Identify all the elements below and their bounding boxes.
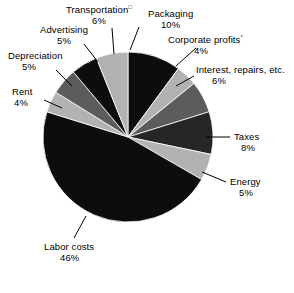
slice-label-depreciation: Depreciation 5% (8, 50, 63, 72)
slice-label-transportation-footnote: □ (128, 4, 132, 10)
leader-line-advertising (84, 44, 98, 62)
slice-value-depreciation: 5% (22, 61, 63, 72)
slice-value-transportation: 6% (92, 15, 132, 26)
slice-value-taxes: 8% (241, 142, 259, 153)
slice-label-interest-text: Interest, repairs, etc. (196, 64, 285, 75)
pie-chart: Packaging 10% Corporate profits° 4% Inte… (0, 0, 294, 293)
leader-line-packaging (130, 27, 139, 50)
slice-label-corporate-profits: Corporate profits° 4% (168, 34, 243, 56)
slice-label-energy: Energy 5% (230, 176, 261, 198)
slice-label-advertising: Advertising 5% (40, 24, 88, 46)
leader-line-transportation (112, 28, 114, 54)
slice-label-transportation-text: Transportation (66, 4, 128, 15)
slice-value-interest: 6% (212, 75, 285, 86)
slice-label-labor-costs: Labor costs 46% (44, 241, 94, 263)
slice-label-interest: Interest, repairs, etc. 6% (196, 64, 285, 86)
slice-value-corporate-profits: 4% (194, 45, 243, 56)
leader-line-energy (202, 172, 226, 182)
slice-label-taxes-text: Taxes (234, 131, 259, 142)
leader-line-labor-costs (74, 216, 86, 238)
slice-label-corporate-profits-footnote: ° (240, 34, 243, 40)
slice-value-labor-costs: 46% (60, 252, 94, 263)
slice-label-energy-text: Energy (230, 176, 261, 187)
slice-value-energy: 5% (239, 187, 261, 198)
slice-label-rent: Rent 4% (12, 86, 32, 108)
slice-label-taxes: Taxes 8% (234, 131, 259, 153)
slice-value-rent: 4% (14, 97, 32, 108)
slice-label-depreciation-text: Depreciation (8, 50, 63, 61)
slice-value-advertising: 5% (57, 35, 88, 46)
slice-label-transportation: Transportation□ 6% (66, 4, 132, 26)
slice-label-corporate-profits-text: Corporate profits (168, 34, 240, 45)
pie-slices-group (43, 52, 213, 222)
slice-label-packaging: Packaging 10% (148, 8, 193, 30)
slice-label-rent-text: Rent (12, 86, 32, 97)
slice-label-labor-costs-text: Labor costs (44, 241, 94, 252)
slice-label-packaging-text: Packaging (148, 8, 193, 19)
slice-value-packaging: 10% (148, 19, 193, 30)
